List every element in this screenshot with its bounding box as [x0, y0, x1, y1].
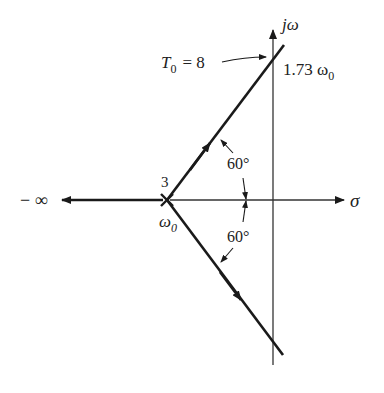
imaginary-axis-label: jω [280, 15, 299, 34]
crossing-frequency-label: 1.73 ω0 [283, 60, 334, 83]
real-axis-label: σ [350, 190, 360, 211]
gain-label: T0= 8 [161, 53, 205, 76]
gain-pointer-arrow [222, 57, 266, 62]
angle-label-upper: 60° [227, 155, 249, 172]
root-locus-diagram: jω σ − ∞ 3 ω0 T0= 8 1.73 ω0 60° 60° [0, 0, 384, 393]
pole-location-label: ω0 [159, 212, 177, 235]
pole-multiplicity-label: 3 [161, 174, 169, 190]
negative-infinity-label: − ∞ [20, 190, 48, 210]
locus-branch-lower [167, 200, 283, 355]
angle-label-lower: 60° [227, 228, 249, 245]
